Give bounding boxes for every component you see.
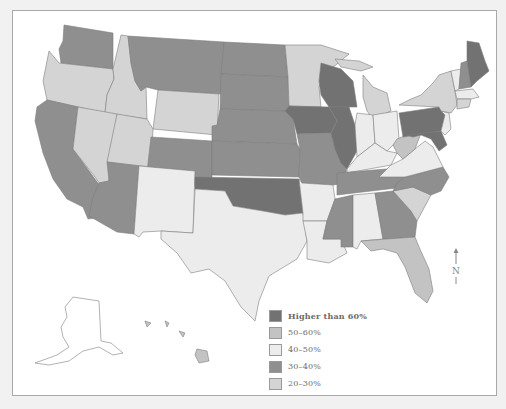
legend-label: Higher than 60% — [288, 311, 367, 321]
state-connecticut — [457, 99, 471, 109]
legend-item: 20–30% — [269, 375, 396, 392]
legend-label: 40–50% — [288, 345, 321, 354]
legend-item: 40–50% — [269, 341, 396, 358]
legend: Higher than 60% 50–60% 40–50% 30–40% 20–… — [269, 307, 396, 396]
legend-swatch-not-available — [269, 395, 282, 397]
state-alaska — [35, 297, 123, 365]
legend-swatch-20-30 — [269, 378, 282, 390]
map-frame: Higher than 60% 50–60% 40–50% 30–40% 20–… — [12, 10, 497, 396]
state-north-dakota — [221, 42, 288, 77]
us-choropleth-map — [13, 11, 497, 396]
north-label: N — [452, 266, 460, 276]
state-wisconsin — [319, 63, 357, 107]
legend-item: 30–40% — [269, 358, 396, 375]
legend-swatch-40-50 — [269, 344, 282, 356]
legend-item: Higher than 60% — [269, 307, 396, 324]
legend-item: Information not available — [269, 392, 396, 396]
legend-swatch-higher-than-60 — [269, 310, 282, 322]
legend-swatch-30-40 — [269, 361, 282, 373]
legend-swatch-50-60 — [269, 327, 282, 339]
state-massachusetts — [455, 89, 479, 99]
north-arrow-icon: N — [450, 248, 462, 284]
state-south-dakota — [220, 74, 289, 111]
legend-label: 30–40% — [288, 362, 321, 371]
state-florida — [361, 237, 433, 303]
legend-item: 50–60% — [269, 324, 396, 341]
state-hawaii — [145, 321, 209, 363]
state-nebraska — [212, 109, 297, 144]
state-new-mexico — [134, 166, 195, 237]
legend-label: 50–60% — [288, 328, 321, 337]
state-maine — [467, 41, 489, 87]
state-montana — [128, 36, 224, 94]
state-washington — [59, 25, 113, 69]
legend-label: 20–30% — [288, 379, 321, 388]
state-new-york — [399, 71, 457, 113]
state-wyoming — [153, 90, 219, 135]
state-kansas — [212, 141, 300, 177]
